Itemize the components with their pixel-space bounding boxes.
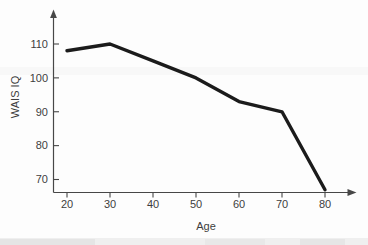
x-tick-label-70: 70: [276, 198, 288, 210]
y-tick-label-70: 70: [36, 173, 48, 185]
wais-iq-line-chart: 11010090807020304050607080WAIS IQAge: [0, 0, 368, 245]
scan-artifact-bottom: [0, 238, 368, 245]
x-tick-label-20: 20: [61, 198, 73, 210]
chart-canvas: 11010090807020304050607080WAIS IQAge: [0, 0, 368, 245]
x-tick-label-50: 50: [190, 198, 202, 210]
y-tick-label-100: 100: [30, 72, 48, 84]
x-tick-label-30: 30: [104, 198, 116, 210]
y-tick-label-110: 110: [30, 38, 48, 50]
x-tick-label-80: 80: [319, 198, 331, 210]
y-tick-label-90: 90: [36, 106, 48, 118]
x-tick-label-60: 60: [233, 198, 245, 210]
figure-background: [0, 0, 368, 245]
y-axis-title: WAIS IQ: [9, 75, 21, 118]
x-axis-title: Age: [196, 220, 216, 232]
x-tick-label-40: 40: [147, 198, 159, 210]
y-tick-label-80: 80: [36, 139, 48, 151]
